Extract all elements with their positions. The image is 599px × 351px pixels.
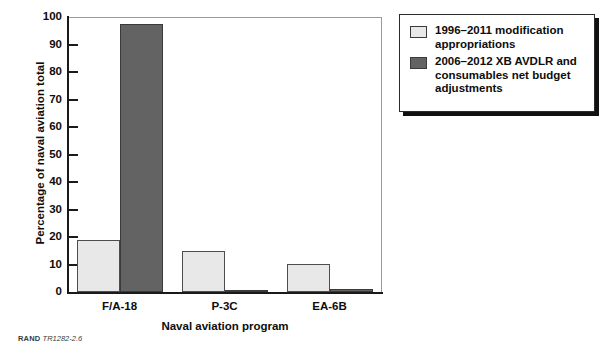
y-axis-tick xyxy=(69,209,78,211)
legend-item: 2006–2012 XB AVDLR and consumables net b… xyxy=(410,55,586,96)
legend-item-label: 2006–2012 XB AVDLR and consumables net b… xyxy=(435,55,586,96)
y-axis-tick xyxy=(69,154,78,156)
x-axis-category-label: P-3C xyxy=(175,300,275,312)
legend-item-label: 1996–2011 modification appropriations xyxy=(435,24,586,51)
bar-f-a-18-dark xyxy=(120,24,163,292)
x-axis-category-label: F/A-18 xyxy=(70,300,170,312)
x-axis-title: Naval aviation program xyxy=(67,320,383,332)
legend-item: 1996–2011 modification appropriations xyxy=(410,24,586,51)
plot-right-rule xyxy=(381,17,382,293)
legend-swatch-dark-icon xyxy=(410,57,427,69)
y-axis-tick xyxy=(69,126,78,128)
bar-p-3c-light xyxy=(182,251,225,292)
source-figure-code: TR1282-2.6 xyxy=(43,334,83,343)
y-axis-tick xyxy=(69,71,78,73)
legend-box: 1996–2011 modification appropriations 20… xyxy=(399,14,595,112)
plot-top-rule xyxy=(68,17,382,18)
bar-ea-6b-dark xyxy=(330,289,373,292)
figure-bar-chart: 0102030405060708090100 Percentage of nav… xyxy=(0,0,599,351)
bar-ea-6b-light xyxy=(287,264,330,292)
bar-p-3c-dark xyxy=(225,290,268,292)
y-axis-title: Percentage of naval aviation total xyxy=(34,28,46,278)
y-axis-tick-label: 0 xyxy=(32,286,62,297)
y-axis-tick xyxy=(69,181,78,183)
bar-f-a-18-light xyxy=(77,240,120,292)
figure-source-note: RAND TR1282-2.6 xyxy=(18,334,82,343)
x-axis-category-label: EA-6B xyxy=(280,300,380,312)
source-publisher: RAND xyxy=(18,334,40,343)
y-axis-tick xyxy=(69,99,78,101)
x-axis-line xyxy=(67,292,383,294)
y-axis-tick xyxy=(69,236,78,238)
y-axis-tick-label: 100 xyxy=(32,11,62,22)
legend-swatch-light-icon xyxy=(410,26,427,38)
y-axis-tick xyxy=(69,44,78,46)
